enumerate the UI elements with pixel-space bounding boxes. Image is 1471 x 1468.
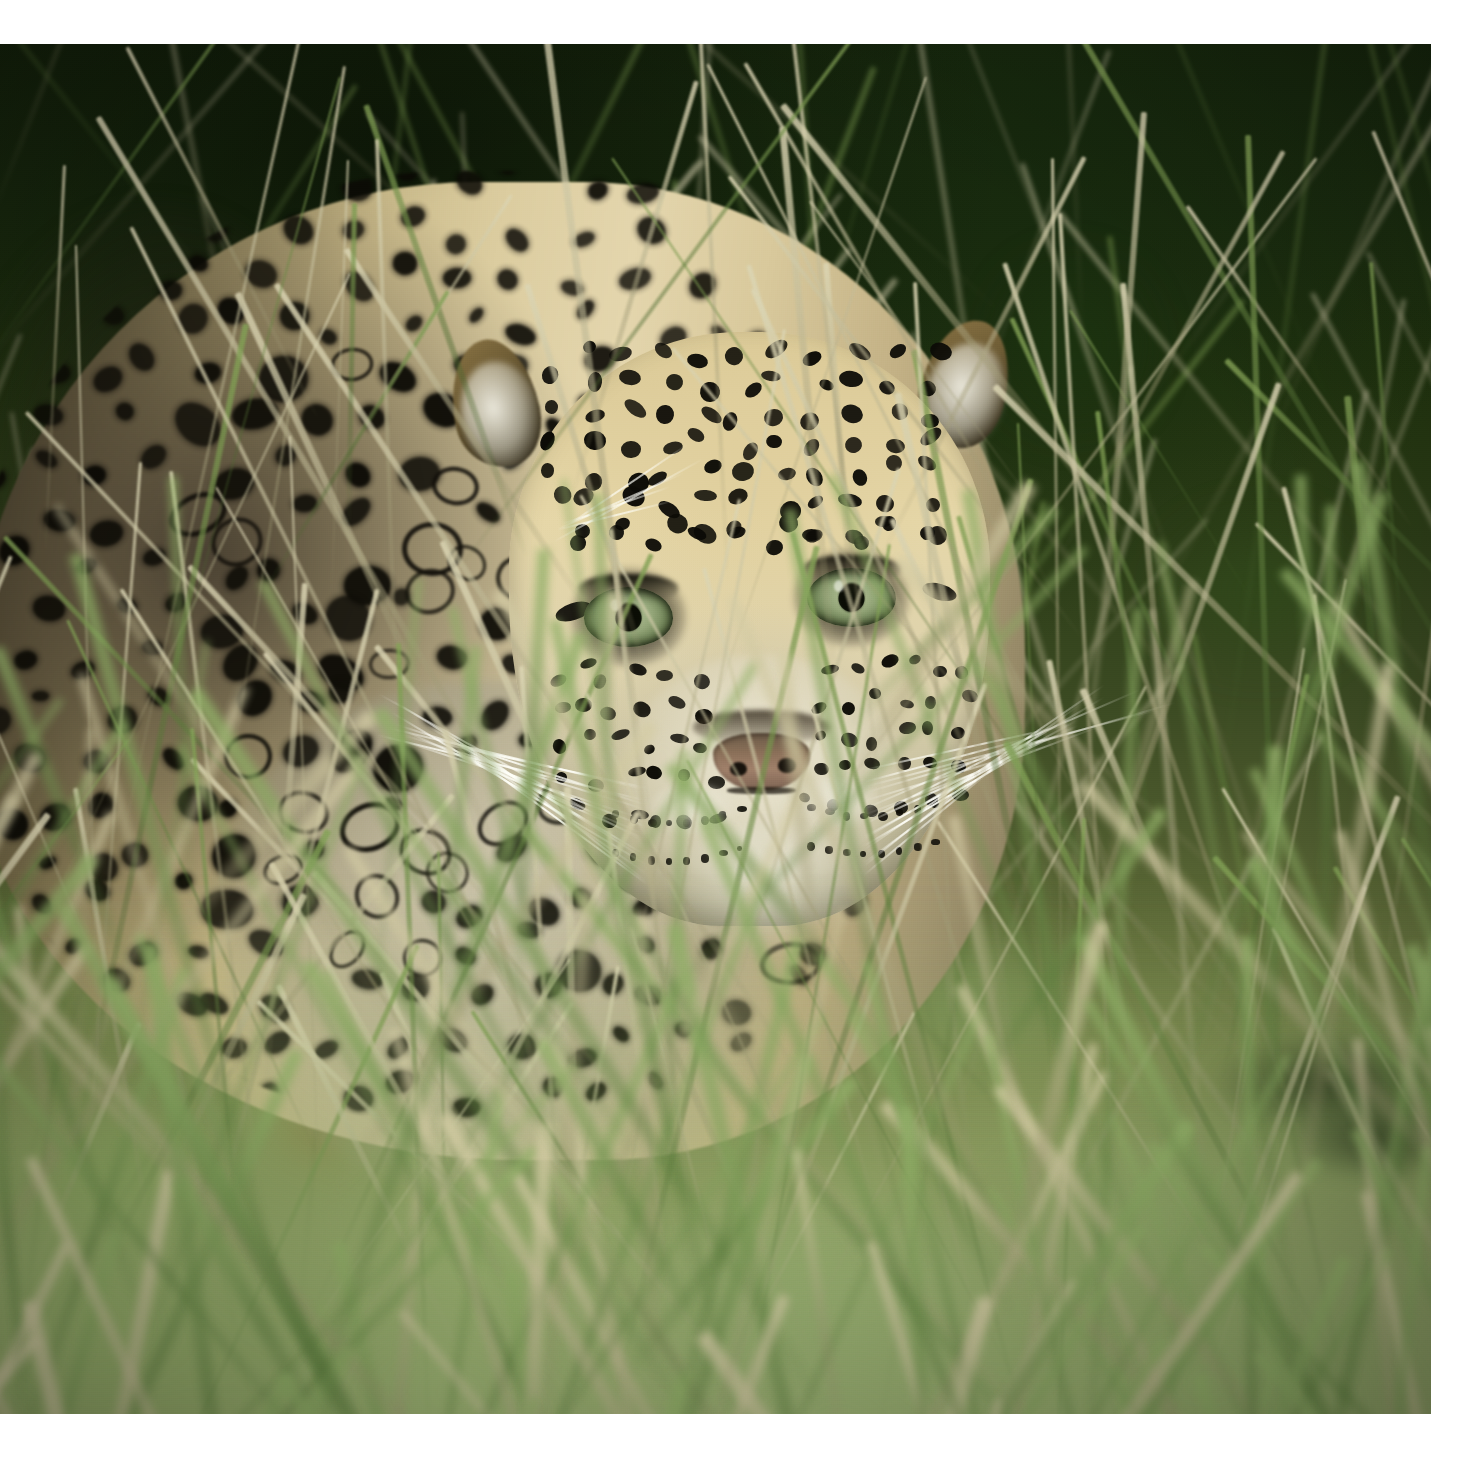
bottom-white-margin [0,1414,1471,1468]
page-root [0,0,1471,1468]
right-white-margin [1431,0,1471,1468]
top-white-margin [0,0,1471,44]
photograph [0,44,1431,1414]
vignette [0,44,1431,1414]
